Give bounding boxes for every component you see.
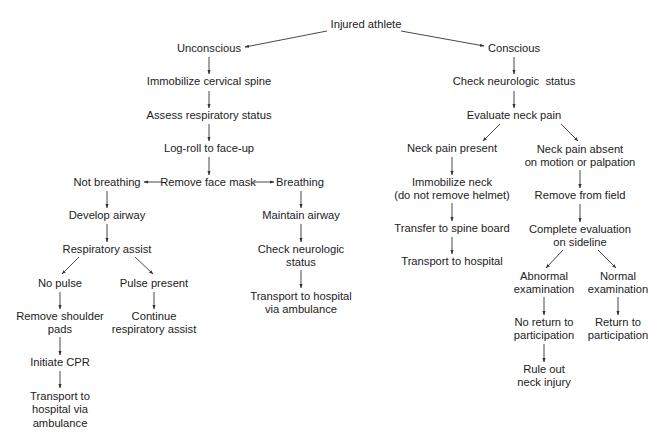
flowchart-canvas: Injured athleteUnconsciousConsciousImmob… xyxy=(0,0,663,438)
flow-node-remove-pads: Remove shoulderpads xyxy=(16,310,104,337)
flow-node-maintain-airway: Maintain airway xyxy=(262,209,340,222)
flow-node-no-return: No return toparticipation xyxy=(514,316,574,343)
node-label-line: hospital via xyxy=(30,403,90,416)
node-label-line: Log-roll to face-up xyxy=(164,142,254,155)
node-label-line: respiratory assist xyxy=(112,323,197,336)
node-label-line: Rule out xyxy=(517,363,570,376)
node-label-line: Return to xyxy=(588,316,648,329)
node-label-line: (do not remove helmet) xyxy=(394,189,510,202)
node-label-line: Evaluate neck pain xyxy=(467,109,562,122)
node-label-line: Check neurologic status xyxy=(453,75,576,88)
node-label-line: Maintain airway xyxy=(262,209,340,222)
node-label-line: on sideline xyxy=(529,236,631,249)
node-label-line: Abnormal xyxy=(514,270,574,283)
flow-node-develop-airway: Develop airway xyxy=(69,209,145,222)
flow-node-pulse-present: Pulse present xyxy=(120,277,188,290)
node-label-line: No return to xyxy=(514,316,574,329)
flow-node-transport-amb-right: Transport to hospitalvia ambulance xyxy=(250,290,352,317)
node-label-line: examination xyxy=(588,283,648,296)
node-label-line: Assess respiratory status xyxy=(147,109,272,122)
flow-node-immobilize-spine: Immobilize cervical spine xyxy=(147,75,271,88)
flow-node-eval-neck: Evaluate neck pain xyxy=(467,109,562,122)
node-label-line: Respiratory assist xyxy=(63,243,152,256)
node-label-line: neck injury xyxy=(517,376,570,389)
node-label-line: Transport to xyxy=(30,390,90,403)
node-label-line: Injured athlete xyxy=(331,18,402,31)
flow-node-abnormal-exam: Abnormalexamination xyxy=(514,270,574,297)
flow-node-continue-resp: Continuerespiratory assist xyxy=(112,310,197,337)
node-label-line: Immobilize cervical spine xyxy=(147,75,271,88)
arrow-eval_neck-to-neck_pain_absent xyxy=(561,124,578,141)
node-label-line: Transport to hospital xyxy=(250,290,352,303)
flow-node-injured: Injured athlete xyxy=(331,18,402,31)
node-label-line: Remove from field xyxy=(535,189,626,202)
node-label-line: Not breathing xyxy=(73,176,140,189)
node-label-line: Initiate CPR xyxy=(30,356,90,369)
node-label-line: on motion or palpation xyxy=(525,156,636,169)
flow-node-not-breathing: Not breathing xyxy=(73,176,140,189)
node-label-line: via ambulance xyxy=(250,303,352,316)
flow-node-unconscious: Unconscious xyxy=(177,42,241,55)
flow-node-neck-pain-absent: Neck pain absenton motion or palpation xyxy=(525,143,636,170)
node-label-line: examination xyxy=(514,283,574,296)
flow-node-remove-mask: Remove face mask xyxy=(160,176,256,189)
flow-node-neck-pain-present: Neck pain present xyxy=(407,142,497,155)
flow-node-transport-amb-left: Transport tohospital viaambulance xyxy=(30,390,90,430)
flow-node-transport-hosp: Transport to hospital xyxy=(401,255,503,268)
node-label-line: status xyxy=(258,256,344,269)
node-label-line: participation xyxy=(588,329,648,342)
arrow-injured-to-unconscious xyxy=(245,31,327,47)
node-label-line: Pulse present xyxy=(120,277,188,290)
node-label-line: Neck pain absent xyxy=(525,143,636,156)
node-label-line: Develop airway xyxy=(69,209,145,222)
node-label-line: Breathing xyxy=(276,176,324,189)
node-label-line: Continue xyxy=(112,310,197,323)
flow-node-check-neuro-left: Check neurologicstatus xyxy=(258,243,344,270)
node-label-line: Remove face mask xyxy=(160,176,256,189)
node-label-line: Normal xyxy=(588,270,648,283)
flow-node-assess-resp: Assess respiratory status xyxy=(147,109,272,122)
node-label-line: Remove shoulder xyxy=(16,310,104,323)
flow-node-breathing: Breathing xyxy=(276,176,324,189)
node-label-line: Immobilize neck xyxy=(394,176,510,189)
flow-node-normal-exam: Normalexamination xyxy=(588,270,648,297)
flow-node-log-roll: Log-roll to face-up xyxy=(164,142,254,155)
node-label-line: pads xyxy=(16,323,104,336)
node-label-line: Complete evaluation xyxy=(529,223,631,236)
node-label-line: Transfer to spine board xyxy=(394,222,509,235)
arrow-complete_eval-to-normal_exam xyxy=(598,250,616,268)
node-label-line: No pulse xyxy=(38,277,82,290)
node-label-line: Transport to hospital xyxy=(401,255,503,268)
flow-node-resp-assist: Respiratory assist xyxy=(63,243,152,256)
flow-node-return-part: Return toparticipation xyxy=(588,316,648,343)
node-label-line: Check neurologic xyxy=(258,243,344,256)
node-label-line: participation xyxy=(514,329,574,342)
flow-node-spine-board: Transfer to spine board xyxy=(394,222,509,235)
arrow-injured-to-conscious xyxy=(401,31,484,46)
arrow-complete_eval-to-abnormal_exam xyxy=(546,250,563,268)
flow-node-complete-eval: Complete evaluationon sideline xyxy=(529,223,631,250)
flow-node-immobilize-neck: Immobilize neck(do not remove helmet) xyxy=(394,176,510,203)
flow-node-check-neuro-right: Check neurologic status xyxy=(453,75,576,88)
flow-node-no-pulse: No pulse xyxy=(38,277,82,290)
node-label-line: Unconscious xyxy=(177,42,241,55)
node-label-line: ambulance xyxy=(30,417,90,430)
node-label-line: Conscious xyxy=(488,42,540,55)
flow-node-remove-field: Remove from field xyxy=(535,189,626,202)
flow-node-conscious: Conscious xyxy=(488,42,540,55)
flow-node-rule-out: Rule outneck injury xyxy=(517,363,570,390)
arrow-eval_neck-to-neck_pain_present xyxy=(483,124,500,141)
arrow-resp_assist-to-pulse_present xyxy=(135,257,153,274)
flow-node-initiate-cpr: Initiate CPR xyxy=(30,356,90,369)
arrow-resp_assist-to-no_pulse xyxy=(62,257,79,274)
node-label-line: Neck pain present xyxy=(407,142,497,155)
